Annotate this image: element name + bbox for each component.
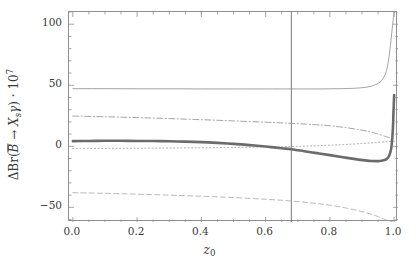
y-title-x: X: [7, 117, 21, 126]
plot-canvas: [69, 12, 398, 222]
series-thin-solid-upper: [73, 12, 394, 89]
y-tick-label: 100: [42, 17, 62, 28]
y-tick-label: −50: [40, 200, 62, 211]
y-title-delta: Δ: [7, 172, 21, 181]
x-tick-label: 0.0: [63, 226, 80, 237]
plot-frame: [68, 11, 397, 221]
y-title-gamma: γ: [7, 106, 21, 113]
y-title-x-subscript: s: [13, 113, 23, 117]
x-tick-label: 0.2: [128, 226, 145, 237]
series-dash-dot-upper: [73, 116, 394, 138]
x-axis-title: z0: [0, 243, 419, 258]
x-title-z-subscript: 0: [210, 248, 216, 258]
y-tick-label: 0: [55, 139, 62, 150]
y-title-br: Br(: [7, 152, 21, 171]
y-tick-label: 50: [49, 78, 62, 89]
x-tick-label: 1.0: [385, 226, 402, 237]
x-tick-label: 0.8: [321, 226, 338, 237]
x-tick-label: 0.4: [192, 226, 209, 237]
y-axis-title: ΔBr(B → Xsγ) · 107: [5, 25, 22, 225]
y-title-bbar: B: [7, 144, 20, 153]
x-axis-tick-labels: 0.00.20.40.60.81.0: [0, 226, 419, 242]
y-title-exponent: 7: [5, 69, 15, 75]
x-tick-label: 0.6: [256, 226, 273, 237]
series-dashed-lower: [73, 193, 394, 222]
y-title-close: ) · 10: [7, 74, 21, 105]
y-title-arrow: →: [7, 126, 21, 144]
figure-bsgamma-deltabr-plot: −50050100 0.00.20.40.60.81.0 ΔBr(B → Xsγ…: [0, 0, 419, 263]
